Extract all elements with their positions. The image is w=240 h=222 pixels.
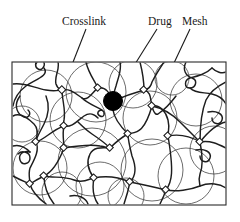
label-mesh: Mesh	[182, 15, 208, 27]
hydrogel-network-diagram: Crosslink Drug Mesh	[0, 0, 240, 222]
label-crosslink: Crosslink	[62, 15, 106, 27]
drug-particle	[104, 92, 123, 111]
label-drug: Drug	[148, 15, 172, 28]
